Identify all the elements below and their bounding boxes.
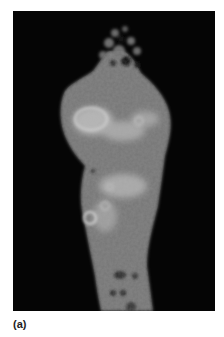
panel-label: (a) (13, 318, 26, 330)
micrograph-panel (13, 11, 215, 311)
specimen-texture (61, 51, 171, 311)
specimen-image (13, 11, 215, 311)
